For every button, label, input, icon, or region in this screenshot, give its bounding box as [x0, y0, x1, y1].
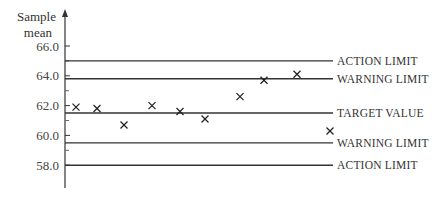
data-points — [73, 71, 334, 135]
x-marker-icon — [294, 71, 301, 78]
x-marker-icon — [237, 93, 244, 100]
tick-label: 58.0 — [36, 158, 59, 173]
tick-label: 66.0 — [36, 39, 59, 54]
reference-line-label: WARNING LIMIT — [337, 137, 429, 149]
x-marker-icon — [121, 121, 128, 128]
reference-lines: ACTION LIMITWARNING LIMITTARGET VALUEWAR… — [65, 55, 429, 171]
tick-label: 64.0 — [36, 68, 59, 83]
y-axis-label: Sample mean — [17, 9, 56, 40]
tick-label: 60.0 — [36, 128, 59, 143]
x-marker-icon — [202, 116, 209, 123]
x-marker-icon — [94, 105, 101, 112]
reference-line-label: ACTION LIMIT — [337, 55, 418, 67]
control-chart: Sample mean 58.060.062.064.066.0 ACTION … — [0, 0, 438, 200]
reference-line-label: TARGET VALUE — [337, 107, 424, 119]
x-marker-icon — [261, 77, 268, 84]
reference-line-label: WARNING LIMIT — [337, 73, 429, 85]
tick-label: 62.0 — [36, 98, 59, 113]
y-axis-label-line1: Sample — [17, 9, 56, 24]
y-axis — [62, 9, 68, 188]
x-marker-icon — [327, 127, 334, 134]
reference-line-label: ACTION LIMIT — [337, 159, 418, 171]
x-marker-icon — [73, 104, 80, 111]
arrow-up-icon — [62, 9, 68, 17]
x-marker-icon — [177, 108, 184, 115]
x-marker-icon — [149, 102, 156, 109]
